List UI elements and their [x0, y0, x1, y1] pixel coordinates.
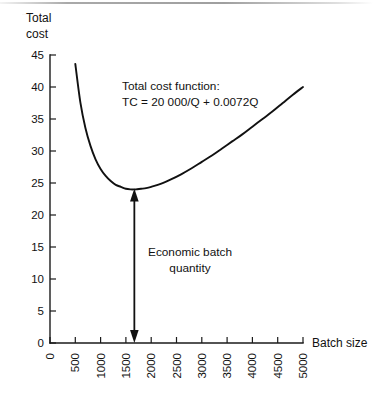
note-total-cost-line2: TC = 20 000/Q + 0.0072Q [122, 95, 258, 109]
economic-batch-quantity-arrow [130, 188, 139, 343]
arrow-head-down-icon [130, 330, 139, 343]
x-tick-label-500: 500 [69, 353, 81, 372]
y-tick-label-5: 5 [38, 305, 44, 317]
y-tick-label-40: 40 [31, 81, 44, 93]
x-tick-label-1500: 1500 [120, 353, 132, 379]
economic-batch-quantity-note: Economic batch quantity [148, 245, 232, 275]
y-tick-label-25: 25 [31, 177, 44, 189]
x-tick-label-3500: 3500 [221, 353, 233, 379]
y-tick-label-0: 0 [38, 337, 44, 349]
y-tick-label-10: 10 [31, 273, 44, 285]
y-axis-title-line2: cost [26, 27, 49, 41]
x-tick-label-3000: 3000 [196, 353, 208, 379]
x-axis-tick-labels: 0 500 1000 1500 2000 2500 3000 3500 4000… [44, 353, 309, 379]
note-ebq-line1: Economic batch [148, 245, 232, 259]
y-tick-label-35: 35 [31, 113, 44, 125]
x-tick-label-4500: 4500 [272, 353, 284, 379]
x-axis-ticks [50, 337, 303, 343]
x-axis-title: Batch size [312, 336, 368, 350]
x-tick-label-1000: 1000 [95, 353, 107, 379]
x-tick-label-4000: 4000 [246, 353, 258, 379]
y-tick-label-30: 30 [31, 145, 44, 157]
x-tick-label-0: 0 [44, 353, 56, 359]
x-tick-label-2000: 2000 [145, 353, 157, 379]
x-tick-label-5000: 5000 [297, 353, 309, 379]
note-ebq-line2: quantity [169, 261, 210, 275]
scan-artifact-text: ····· [22, 11, 32, 17]
y-tick-label-45: 45 [31, 49, 44, 61]
note-total-cost-line1: Total cost function: [122, 79, 220, 93]
y-axis-ticks [50, 55, 56, 343]
economic-batch-quantity-chart: Total cost 0 5 10 15 20 25 [0, 0, 373, 395]
chart-figure: Total cost 0 5 10 15 20 25 [0, 0, 373, 395]
total-cost-function-note: Total cost function: TC = 20 000/Q + 0.0… [122, 79, 258, 109]
y-tick-label-20: 20 [31, 209, 44, 221]
y-axis-tick-labels: 0 5 10 15 20 25 30 35 40 45 [31, 49, 44, 349]
y-tick-label-15: 15 [31, 241, 44, 253]
scan-artifact-line [0, 2, 373, 4]
x-tick-label-2500: 2500 [171, 353, 183, 379]
